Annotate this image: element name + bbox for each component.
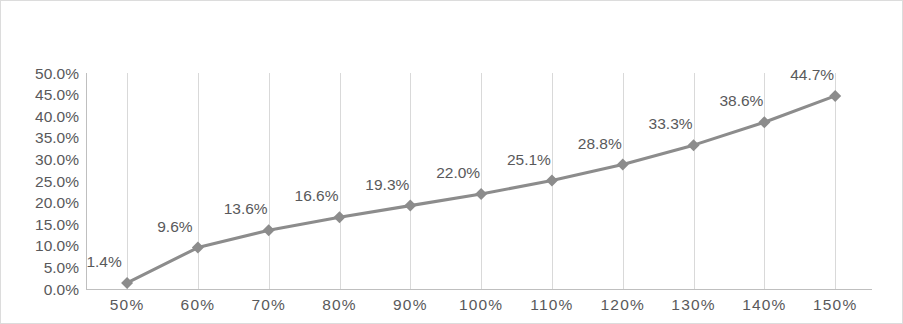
data-point-label: 19.3% (365, 176, 409, 193)
y-axis-tick-label: 50.0% (35, 65, 79, 82)
data-point-label: 25.1% (507, 151, 551, 168)
data-point-label: 1.4% (86, 253, 122, 270)
x-axis-tick-label: 70% (251, 296, 286, 313)
y-axis-tick-label: 25.0% (35, 173, 79, 190)
data-point-label: 44.7% (790, 66, 834, 83)
x-axis-tick-label: 80% (322, 296, 357, 313)
x-axis-tick-label: 120% (601, 296, 645, 313)
y-axis-tick-label: 40.0% (35, 108, 79, 125)
y-axis-tick-label: 35.0% (35, 129, 79, 146)
x-axis-tick-labels: 50%60%70%80%90%100%110%120%130%140%150% (110, 296, 858, 313)
chart-figure: 50.0%45.0%40.0%35.0%30.0%25.0%20.0%15.0%… (0, 0, 903, 324)
x-axis-tick-label: 140% (742, 296, 786, 313)
y-axis-tick-label: 45.0% (35, 86, 79, 103)
y-axis-tick-label: 0.0% (44, 281, 80, 298)
y-axis-tick-label: 20.0% (35, 194, 79, 211)
y-axis-tick-label: 15.0% (35, 216, 79, 233)
x-axis-tick-label: 100% (459, 296, 503, 313)
data-point-label: 13.6% (224, 200, 268, 217)
data-point-label: 33.3% (649, 115, 693, 132)
data-point-label: 28.8% (578, 135, 622, 152)
y-axis-tick-label: 5.0% (44, 259, 80, 276)
x-axis-tick-label: 150% (813, 296, 857, 313)
x-axis-tick-label: 130% (671, 296, 715, 313)
y-axis-tick-label: 10.0% (35, 237, 79, 254)
x-axis-tick-label: 60% (181, 296, 216, 313)
x-axis-tick-label: 110% (530, 296, 573, 313)
x-axis-tick-label: 50% (110, 296, 145, 313)
data-point-label: 22.0% (436, 164, 480, 181)
data-point-label: 9.6% (157, 218, 193, 235)
data-point-label: 16.6% (295, 187, 339, 204)
y-axis-tick-label: 30.0% (35, 151, 79, 168)
data-point-label: 38.6% (719, 92, 763, 109)
line-chart: 50.0%45.0%40.0%35.0%30.0%25.0%20.0%15.0%… (1, 1, 903, 324)
y-axis-tick-labels: 50.0%45.0%40.0%35.0%30.0%25.0%20.0%15.0%… (35, 65, 79, 298)
x-axis-tick-label: 90% (393, 296, 428, 313)
